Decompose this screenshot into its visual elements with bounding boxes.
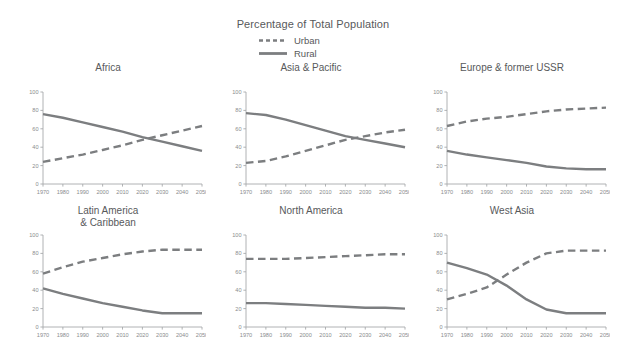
svg-text:2000: 2000 bbox=[96, 332, 108, 338]
legend-label-rural: Rural bbox=[294, 48, 317, 59]
svg-text:80: 80 bbox=[235, 250, 241, 256]
figure-title: Percentage of Total Population bbox=[0, 18, 626, 30]
panel-north-america: North America020406080100197019801990200… bbox=[213, 205, 409, 355]
panel-asia-pacific: Asia & Pacific02040608010019701980199020… bbox=[213, 62, 409, 212]
svg-text:2020: 2020 bbox=[339, 332, 351, 338]
legend-item-rural: Rural bbox=[259, 48, 367, 59]
legend: Urban Rural bbox=[0, 35, 626, 59]
svg-text:40: 40 bbox=[235, 144, 241, 150]
svg-text:1970: 1970 bbox=[37, 332, 49, 338]
svg-text:20: 20 bbox=[235, 306, 241, 312]
svg-text:2040: 2040 bbox=[176, 332, 188, 338]
svg-text:1990: 1990 bbox=[77, 332, 89, 338]
svg-text:2050: 2050 bbox=[196, 332, 206, 338]
svg-text:2000: 2000 bbox=[96, 189, 108, 195]
panel-plot-area: 0204060801001970198019902000201020202030… bbox=[10, 205, 206, 355]
svg-text:2020: 2020 bbox=[136, 332, 148, 338]
svg-text:1980: 1980 bbox=[57, 189, 69, 195]
svg-text:100: 100 bbox=[232, 89, 241, 95]
svg-text:100: 100 bbox=[29, 232, 38, 238]
legend-swatch-urban-dashed-icon bbox=[259, 36, 287, 45]
svg-text:2020: 2020 bbox=[540, 189, 552, 195]
svg-text:2010: 2010 bbox=[520, 189, 532, 195]
series-line-urban bbox=[43, 250, 202, 274]
svg-text:1970: 1970 bbox=[240, 332, 252, 338]
svg-text:2010: 2010 bbox=[319, 189, 331, 195]
svg-text:2040: 2040 bbox=[379, 332, 391, 338]
svg-text:100: 100 bbox=[433, 89, 442, 95]
svg-text:1990: 1990 bbox=[77, 189, 89, 195]
svg-text:0: 0 bbox=[439, 324, 442, 330]
svg-text:100: 100 bbox=[433, 232, 442, 238]
svg-text:2050: 2050 bbox=[399, 332, 409, 338]
svg-text:80: 80 bbox=[436, 107, 442, 113]
svg-text:2000: 2000 bbox=[299, 189, 311, 195]
svg-text:1990: 1990 bbox=[280, 332, 292, 338]
svg-text:60: 60 bbox=[235, 269, 241, 275]
svg-text:2010: 2010 bbox=[116, 332, 128, 338]
svg-text:40: 40 bbox=[436, 144, 442, 150]
svg-text:40: 40 bbox=[32, 287, 38, 293]
svg-text:2030: 2030 bbox=[560, 332, 572, 338]
series-line-rural bbox=[43, 288, 202, 313]
svg-text:2030: 2030 bbox=[359, 332, 371, 338]
svg-text:0: 0 bbox=[238, 181, 241, 187]
svg-text:20: 20 bbox=[235, 163, 241, 169]
panel-latin-america-caribbean: Latin America& Caribbean0204060801001970… bbox=[10, 205, 206, 355]
svg-text:1970: 1970 bbox=[441, 189, 453, 195]
svg-text:0: 0 bbox=[439, 181, 442, 187]
svg-text:1970: 1970 bbox=[240, 189, 252, 195]
svg-text:20: 20 bbox=[32, 163, 38, 169]
svg-text:20: 20 bbox=[32, 306, 38, 312]
series-line-urban bbox=[246, 130, 405, 163]
figure-root: Percentage of Total Population Urban Rur… bbox=[0, 0, 626, 363]
series-line-rural bbox=[246, 303, 405, 309]
svg-text:80: 80 bbox=[32, 250, 38, 256]
svg-text:80: 80 bbox=[436, 250, 442, 256]
panel-plot-area: 0204060801001970198019902000201020202030… bbox=[414, 62, 610, 212]
svg-text:2040: 2040 bbox=[580, 189, 592, 195]
svg-text:100: 100 bbox=[232, 232, 241, 238]
svg-text:0: 0 bbox=[35, 324, 38, 330]
svg-text:1990: 1990 bbox=[280, 189, 292, 195]
series-line-rural bbox=[447, 151, 606, 169]
svg-text:40: 40 bbox=[32, 144, 38, 150]
svg-text:2050: 2050 bbox=[196, 189, 206, 195]
svg-text:20: 20 bbox=[436, 163, 442, 169]
legend-swatch-rural-solid-icon bbox=[259, 49, 287, 58]
svg-text:2050: 2050 bbox=[399, 189, 409, 195]
svg-text:60: 60 bbox=[32, 269, 38, 275]
svg-text:2020: 2020 bbox=[136, 189, 148, 195]
svg-text:2040: 2040 bbox=[580, 332, 592, 338]
panel-europe-former-ussr: Europe & former USSR02040608010019701980… bbox=[414, 62, 610, 212]
svg-text:1980: 1980 bbox=[260, 189, 272, 195]
svg-text:2010: 2010 bbox=[116, 189, 128, 195]
svg-text:2010: 2010 bbox=[520, 332, 532, 338]
svg-text:0: 0 bbox=[35, 181, 38, 187]
svg-text:2020: 2020 bbox=[540, 332, 552, 338]
svg-text:100: 100 bbox=[29, 89, 38, 95]
svg-text:60: 60 bbox=[436, 126, 442, 132]
panel-plot-area: 0204060801001970198019902000201020202030… bbox=[213, 205, 409, 355]
svg-text:1990: 1990 bbox=[481, 332, 493, 338]
panel-africa: Africa0204060801001970198019902000201020… bbox=[10, 62, 206, 212]
svg-text:2000: 2000 bbox=[500, 189, 512, 195]
svg-text:1980: 1980 bbox=[260, 332, 272, 338]
svg-text:1970: 1970 bbox=[441, 332, 453, 338]
svg-text:60: 60 bbox=[436, 269, 442, 275]
series-line-urban bbox=[447, 251, 606, 300]
svg-text:60: 60 bbox=[235, 126, 241, 132]
legend-label-urban: Urban bbox=[294, 35, 320, 46]
panel-plot-area: 0204060801001970198019902000201020202030… bbox=[10, 62, 206, 212]
svg-text:80: 80 bbox=[235, 107, 241, 113]
svg-text:2010: 2010 bbox=[319, 332, 331, 338]
svg-text:2000: 2000 bbox=[500, 332, 512, 338]
svg-text:2030: 2030 bbox=[156, 332, 168, 338]
svg-text:2030: 2030 bbox=[359, 189, 371, 195]
svg-text:40: 40 bbox=[436, 287, 442, 293]
svg-text:2050: 2050 bbox=[600, 189, 610, 195]
svg-text:60: 60 bbox=[32, 126, 38, 132]
svg-text:80: 80 bbox=[32, 107, 38, 113]
svg-text:2000: 2000 bbox=[299, 332, 311, 338]
svg-text:2030: 2030 bbox=[560, 189, 572, 195]
